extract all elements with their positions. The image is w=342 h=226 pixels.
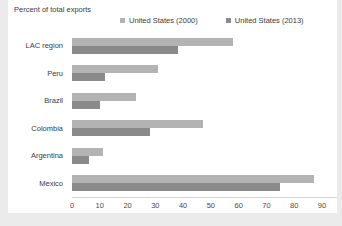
bar [72,128,150,136]
x-tick-label: 60 [234,201,242,210]
bar-group [72,93,322,109]
bar [72,73,105,81]
bar-group [72,38,322,54]
x-axis-line [72,197,337,198]
category-row: Mexico [8,170,337,198]
legend-label-2000: United States (2000) [129,16,198,25]
legend-label-2013: United States (2013) [235,16,304,25]
category-label: Mexico [8,179,63,188]
category-row: LAC region [8,32,337,60]
category-label: Colombia [8,124,63,133]
x-tick-label: 0 [70,201,74,210]
legend-swatch-2013 [226,18,231,23]
bar [72,156,89,164]
bar [72,120,203,128]
chart-plot-area: Percent of total exports United States (… [8,0,337,213]
bar-group [72,120,322,136]
chart-figure: Percent of total exports United States (… [0,0,342,226]
x-tick-label: 80 [290,201,298,210]
category-label: Brazil [8,96,63,105]
x-tick-label: 50 [207,201,215,210]
bar [72,175,314,183]
legend: United States (2000) United States (2013… [120,16,337,25]
bar-rows: LAC regionPeruBrazilColombiaArgentinaMex… [8,32,337,197]
bar [72,46,178,54]
bar [72,38,233,46]
category-row: Argentina [8,142,337,170]
bar [72,101,100,109]
x-tick-label: 10 [96,201,104,210]
category-label: Peru [8,69,63,78]
x-tick-label: 90 [318,201,326,210]
bar-group [72,175,322,191]
bar [72,65,158,73]
category-label: Argentina [8,151,63,160]
legend-item-2000: United States (2000) [120,16,198,25]
category-row: Peru [8,60,337,88]
category-label: LAC region [8,41,63,50]
bar [72,93,136,101]
category-row: Brazil [8,87,337,115]
legend-swatch-2000 [120,18,125,23]
chart-title: Percent of total exports [14,5,91,14]
x-tick-label: 70 [262,201,270,210]
category-row: Colombia [8,115,337,143]
legend-item-2013: United States (2013) [226,16,304,25]
x-tick-label: 40 [179,201,187,210]
x-tick-label: 20 [123,201,131,210]
bar-group [72,65,322,81]
bar [72,148,103,156]
bar [72,183,280,191]
bar-group [72,148,322,164]
x-tick-label: 30 [151,201,159,210]
